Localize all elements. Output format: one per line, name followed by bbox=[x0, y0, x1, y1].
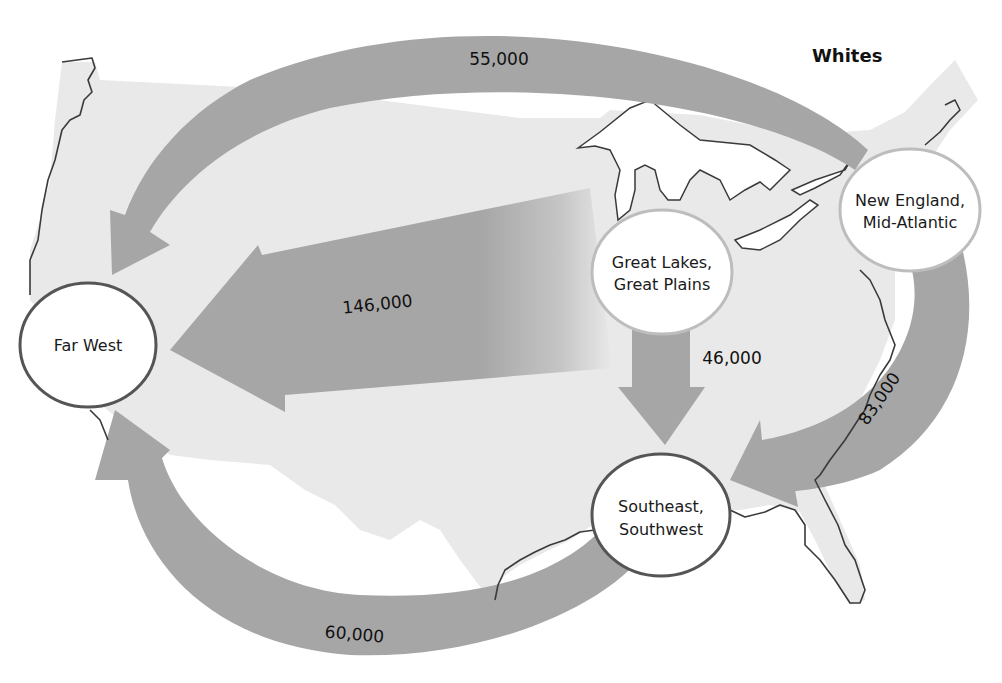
node-label-line2: Great Plains bbox=[614, 275, 710, 294]
node-far-west[interactable]: Far West bbox=[20, 283, 156, 407]
flow-label-55000: 55,000 bbox=[469, 49, 528, 69]
node-label-line2: Southwest bbox=[619, 520, 703, 539]
node-label: Far West bbox=[54, 336, 123, 355]
node-label-line2: Mid-Atlantic bbox=[863, 213, 958, 232]
node-great-lakes-great-plains[interactable]: Great Lakes, Great Plains bbox=[592, 210, 732, 334]
node-southeast-southwest[interactable]: Southeast, Southwest bbox=[592, 454, 730, 576]
map-title: Whites bbox=[812, 45, 882, 66]
node-label-line1: Southeast, bbox=[618, 497, 704, 516]
node-new-england-mid-atlantic[interactable]: New England, Mid-Atlantic bbox=[840, 149, 980, 271]
node-label-line1: New England, bbox=[855, 191, 965, 210]
flow-label-46000: 46,000 bbox=[702, 348, 761, 368]
migration-flow-map: Far West Great Lakes, Great Plains New E… bbox=[0, 0, 1002, 683]
node-label-line1: Great Lakes, bbox=[612, 253, 712, 272]
california-coastline bbox=[90, 410, 108, 440]
